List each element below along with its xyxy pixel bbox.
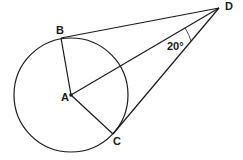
angle-arc: [185, 28, 191, 41]
radius-ab: [61, 38, 71, 95]
tangent-db: [61, 8, 219, 38]
radius-ac: [71, 95, 113, 134]
label-a: A: [61, 91, 69, 103]
center-point-a: [69, 93, 73, 97]
label-d: D: [225, 0, 233, 12]
label-c: C: [113, 135, 121, 147]
angle-label: 20°: [167, 40, 184, 52]
tangent-dc: [113, 8, 219, 134]
segment-ad: [71, 8, 219, 95]
label-b: B: [56, 24, 64, 36]
geometry-diagram: B A C D 20°: [0, 0, 243, 160]
